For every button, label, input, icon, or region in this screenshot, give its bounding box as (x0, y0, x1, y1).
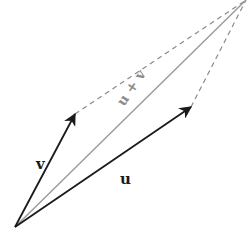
vector-u-label: u (120, 170, 131, 188)
dashed-edge-v-to-sum (75, 0, 246, 114)
dashed-edge-u-to-sum (191, 0, 246, 107)
sum-vector-label: u + v (113, 66, 149, 109)
sum-vector-u-plus-v (15, 0, 246, 227)
vector-v-arrow (15, 114, 75, 227)
vector-addition-diagram: v u u + v (0, 0, 251, 229)
vector-v-label: v (35, 155, 46, 173)
